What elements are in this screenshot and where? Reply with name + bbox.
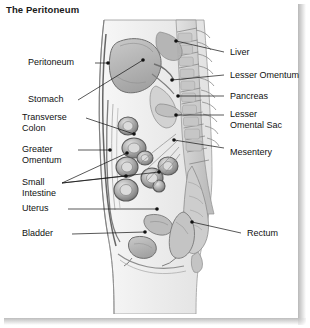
leader-dot-lesser-omentum [170,78,174,82]
label-lesser-omental-sac-line2: Omental Sac [230,120,282,130]
leader-dot-transverse-colon [132,132,136,136]
label-transverse-colon: Transverse Colon [22,112,67,133]
label-small-intestine-line1: Small [22,177,45,187]
label-small-intestine: Small Intestine [22,177,56,198]
leader-dot-peritoneum [106,61,110,65]
leader-dot-small-intestine-1 [157,170,161,174]
label-pancreas: Pancreas [230,91,268,102]
leader-dot-mesentery [172,138,176,142]
label-greater-omentum-line2: Omentum [22,155,62,165]
leader-dot-greater-omentum [108,148,112,152]
figure-panel: The Peritoneum [0,0,310,328]
leader-dot-small-intestine-3 [124,174,128,178]
leader-dot-uterus [155,207,159,211]
card-shadow-bottom [4,318,306,325]
card-shadow-corner [298,318,306,325]
leader-dot-liver [174,39,178,43]
leader-dot-lesser-omental-sac [174,113,178,117]
label-bladder: Bladder [22,228,53,239]
leader-dot-bladder [143,230,147,234]
leader-dot-small-intestine-2 [125,151,129,155]
label-transverse-colon-line2: Colon [22,123,46,133]
leader-dot-pancreas [176,94,180,98]
label-transverse-colon-line1: Transverse [22,112,67,122]
label-peritoneum: Peritoneum [28,57,74,68]
label-stomach: Stomach [28,94,64,105]
label-lesser-omental-sac-line1: Lesser [230,109,257,119]
leader-dot-stomach [141,58,145,62]
label-rectum: Rectum [247,228,278,239]
label-liver: Liver [230,47,250,58]
leader-dot-rectum [190,220,194,224]
card-shadow-right [298,4,306,322]
label-lesser-omentum: Lesser Omentum [230,70,299,81]
label-greater-omentum-line1: Greater [22,144,53,154]
label-greater-omentum: Greater Omentum [22,144,62,165]
label-mesentery: Mesentery [230,147,272,158]
label-lesser-omental-sac: Lesser Omental Sac [230,109,282,130]
label-uterus: Uterus [22,203,49,214]
label-small-intestine-line2: Intestine [22,188,56,198]
